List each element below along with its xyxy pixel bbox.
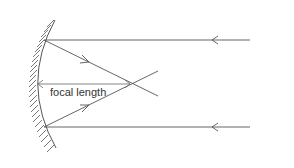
focal-length-label: focal length: [50, 86, 106, 98]
arrow-right-icon: [80, 55, 89, 63]
reflected-ray-bottom: [44, 71, 158, 127]
mirror-diagram: [0, 0, 294, 168]
